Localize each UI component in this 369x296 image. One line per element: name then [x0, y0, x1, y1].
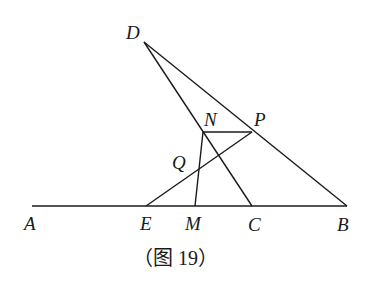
label-B: B	[337, 214, 349, 235]
figure-caption: （图 19）	[133, 247, 218, 269]
label-C: C	[248, 214, 261, 235]
label-D: D	[125, 22, 140, 43]
geometry-diagram: D N P Q A E M C B （图 19）	[0, 0, 369, 296]
label-Q: Q	[172, 152, 186, 173]
label-E: E	[139, 213, 152, 234]
label-P: P	[253, 109, 266, 130]
segment-NM	[195, 132, 203, 206]
label-M: M	[184, 213, 202, 234]
label-N: N	[203, 109, 218, 130]
label-A: A	[22, 213, 36, 234]
segment-DB	[144, 42, 347, 206]
